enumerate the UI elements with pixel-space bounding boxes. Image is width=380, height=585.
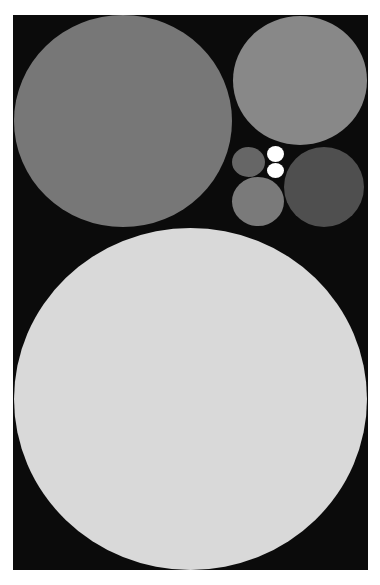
bubble-top-right [233, 16, 367, 145]
bubble-dark-right [284, 147, 364, 227]
bubble-large-light [14, 228, 367, 570]
bubble-bottom-middle [232, 177, 284, 226]
bubble-chart-svg [13, 15, 368, 570]
bubble-chart-area [13, 15, 368, 570]
bubble-white-top [267, 146, 284, 162]
bubble-top-left [14, 15, 232, 227]
figure [0, 0, 380, 585]
bubble-white-bottom [267, 163, 284, 178]
bubble-small-left [232, 147, 265, 177]
